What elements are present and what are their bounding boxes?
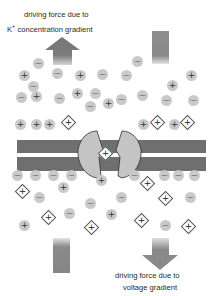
plus-icon: + <box>64 118 73 127</box>
cation-icon: + <box>186 70 197 81</box>
cation-icon: + <box>138 119 149 130</box>
anion-icon: − <box>129 170 140 181</box>
anion-icon: − <box>54 93 65 104</box>
plus-icon: + <box>44 213 53 222</box>
anion-icon: − <box>30 170 41 181</box>
plus-icon: + <box>161 194 170 203</box>
plus-icon: + <box>143 179 152 188</box>
anion-icon: − <box>160 220 171 231</box>
cation-icon: + <box>167 80 178 91</box>
cation-icon: + <box>72 88 83 99</box>
plus-icon: + <box>153 118 162 127</box>
cation-icon: + <box>31 119 42 130</box>
plus-icon: + <box>183 118 192 127</box>
anion-icon: − <box>64 208 75 219</box>
anion-icon: − <box>28 81 39 92</box>
anion-icon: − <box>16 92 27 103</box>
plus-icon: + <box>184 222 193 231</box>
cation-icon: + <box>44 119 55 130</box>
cation-icon: + <box>106 209 117 220</box>
cation-icon: + <box>75 70 86 81</box>
anion-icon: − <box>116 192 127 203</box>
cation-icon: + <box>103 98 114 109</box>
anion-icon: − <box>33 58 44 69</box>
anion-icon: − <box>12 170 23 181</box>
anion-icon: − <box>189 170 200 181</box>
bottom-label-line1: driving force due to <box>115 271 180 280</box>
cation-icon: + <box>31 91 42 102</box>
bottom-label-line2: voltage gradient <box>123 283 177 292</box>
anion-icon: − <box>97 69 108 80</box>
anion-icon: − <box>48 170 59 181</box>
cation-icon: + <box>19 70 30 81</box>
anion-icon: − <box>132 56 143 67</box>
plus-icon: + <box>137 216 146 225</box>
anion-icon: − <box>137 90 148 101</box>
anion-icon: − <box>34 192 45 203</box>
anion-icon: − <box>121 70 132 81</box>
cation-icon: + <box>19 220 30 231</box>
anion-icon: − <box>116 94 127 105</box>
cation-icon: + <box>169 119 180 130</box>
anion-icon: − <box>90 88 101 99</box>
plus-icon: + <box>18 187 27 196</box>
anion-icon: − <box>161 95 172 106</box>
anion-icon: − <box>85 198 96 209</box>
anion-icon: − <box>173 170 184 181</box>
anion-icon: − <box>52 68 63 79</box>
anion-icon: − <box>66 170 77 181</box>
anion-icon: − <box>159 170 170 181</box>
cation-icon: + <box>58 182 69 193</box>
cation-icon: + <box>96 175 107 186</box>
plus-icon: + <box>87 223 96 232</box>
cation-icon: + <box>15 119 26 130</box>
plus-icon: + <box>101 149 110 158</box>
anion-icon: − <box>85 101 96 112</box>
anion-icon: − <box>188 95 199 106</box>
anion-icon: − <box>185 192 196 203</box>
